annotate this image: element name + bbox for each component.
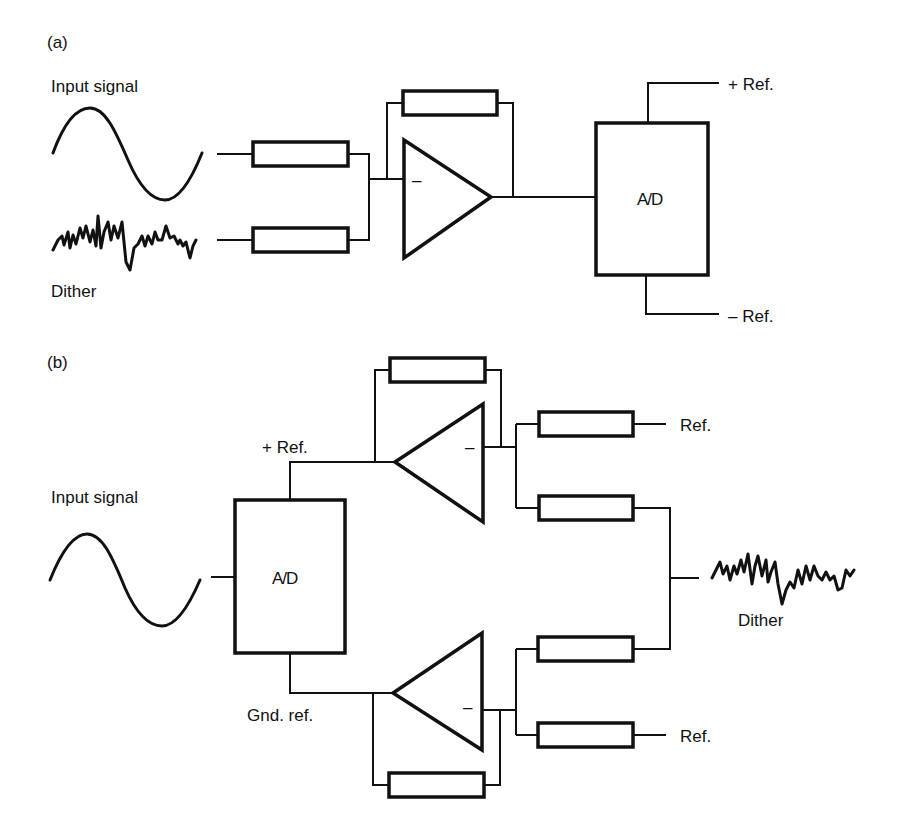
panel-b-tag: (b) (47, 353, 68, 372)
panel-b: (b) Input signal A/D + Ref. – Ref. Dithe… (47, 353, 854, 797)
input-resistor (253, 142, 348, 166)
bottom-opamp-icon (393, 633, 482, 750)
panel-b-dither-label: Dither (738, 611, 784, 630)
plus-ref-label: + Ref. (728, 75, 774, 94)
minus-ref-label: – Ref. (728, 307, 773, 326)
panel-b-input-label: Input signal (51, 488, 138, 507)
dither-noise-icon (53, 216, 196, 270)
panel-a-tag: (a) (47, 33, 68, 52)
plus-ref-label: + Ref. (262, 438, 308, 457)
top-ref-resistor (539, 412, 633, 436)
opamp-minus-sign: – (412, 171, 422, 190)
sine-wave-icon (50, 534, 200, 626)
top-opamp-minus-sign: – (465, 438, 475, 457)
adc-label: A/D (637, 190, 663, 209)
bottom-feedback-resistor (389, 773, 484, 797)
dither-circuit-diagram: (a) Input signal Dither – A/D + Ref. – R… (0, 0, 897, 829)
top-ref-label: Ref. (680, 416, 711, 435)
top-feedback-resistor (390, 358, 485, 382)
gnd-ref-label: Gnd. ref. (247, 706, 313, 725)
panel-a: (a) Input signal Dither – A/D + Ref. – R… (47, 33, 774, 326)
feedback-resistor (403, 91, 497, 115)
adc-label: A/D (272, 569, 298, 588)
panel-a-dither-label: Dither (51, 282, 97, 301)
bottom-ref-resistor (538, 723, 633, 747)
dither-resistor (253, 228, 348, 252)
top-dither-resistor (539, 496, 633, 520)
bottom-dither-resistor (538, 637, 633, 661)
sine-wave-icon (53, 108, 202, 200)
panel-a-input-label: Input signal (51, 77, 138, 96)
bottom-ref-label: Ref. (680, 727, 711, 746)
top-opamp-icon (395, 404, 483, 522)
opamp-icon (404, 140, 491, 258)
dither-noise-icon (712, 554, 854, 604)
bottom-opamp-minus-sign: – (463, 698, 473, 717)
